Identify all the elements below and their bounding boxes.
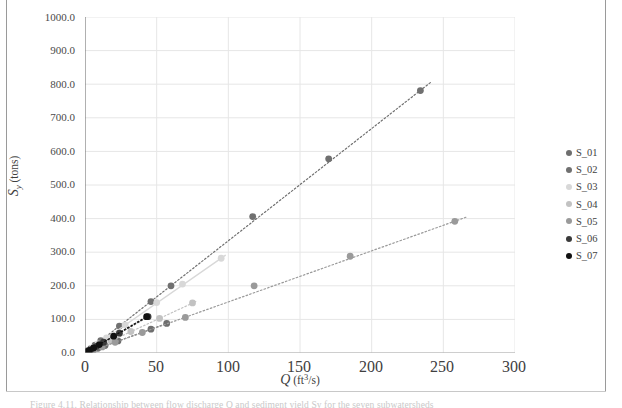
- x-tick-label: 250: [422, 358, 462, 376]
- data-point: [156, 315, 163, 322]
- legend-marker-icon: [566, 184, 572, 190]
- x-tick-label: 0: [65, 358, 105, 376]
- y-axis-symbol: S: [6, 189, 21, 196]
- legend-item-s_01[interactable]: S_01: [566, 144, 616, 161]
- legend-label: S_03: [576, 181, 598, 192]
- legend-label: S_07: [576, 250, 598, 261]
- legend-item-s_06[interactable]: S_06: [566, 230, 616, 247]
- data-point: [249, 213, 256, 220]
- data-point: [417, 87, 424, 94]
- y-axis-units: (tons): [8, 156, 20, 183]
- figure-caption: Figure 4.11. Relationship between flow d…: [30, 400, 590, 408]
- y-tick-label: 400.0: [27, 212, 75, 224]
- legend-label: S_02: [576, 164, 598, 175]
- y-tick-label: 600.0: [27, 145, 75, 157]
- y-tick-label: 1000.0: [27, 11, 75, 23]
- y-tick-label: 900.0: [27, 44, 75, 56]
- data-point: [218, 255, 225, 262]
- y-axis-title: Sy (tons): [6, 156, 23, 197]
- data-point: [189, 300, 196, 307]
- legend-label: S_06: [576, 233, 598, 244]
- data-point: [96, 341, 103, 348]
- data-point: [168, 282, 175, 289]
- y-axis-subscript: y: [13, 185, 23, 189]
- legend-marker-icon: [566, 150, 572, 156]
- y-tick-label: 700.0: [27, 111, 75, 123]
- legend-marker-icon: [566, 218, 572, 224]
- series-s_02: [85, 83, 430, 353]
- x-tick-label: 100: [208, 358, 248, 376]
- data-point: [139, 329, 146, 336]
- data-point: [347, 253, 354, 260]
- plot-area: [85, 17, 515, 353]
- legend-item-s_03[interactable]: S_03: [566, 178, 616, 195]
- y-tick-label: 200.0: [27, 279, 75, 291]
- legend-item-s_07[interactable]: S_07: [566, 247, 616, 264]
- data-point: [325, 155, 332, 162]
- data-point: [143, 313, 150, 320]
- x-tick-label: 300: [494, 358, 534, 376]
- scatter-chart: Sy (tons) Q (ft3/s) 1000.0 900.0 800.0 7…: [0, 0, 560, 392]
- legend-label: S_04: [576, 199, 598, 210]
- series-s_03: [85, 255, 225, 353]
- data-point: [251, 282, 258, 289]
- y-tick-label: 100.0: [27, 312, 75, 324]
- legend-label: S_01: [576, 147, 598, 158]
- data-point: [451, 218, 458, 225]
- data-point: [179, 281, 186, 288]
- x-tick-label: 50: [136, 358, 176, 376]
- series-s_05: [85, 217, 466, 353]
- trendline: [85, 83, 430, 353]
- data-point: [112, 339, 119, 346]
- data-point: [110, 333, 117, 340]
- data-point: [148, 298, 155, 305]
- data-point: [182, 314, 189, 321]
- legend-marker-icon: [566, 253, 572, 259]
- legend-label: S_05: [576, 216, 598, 227]
- y-tick-label: 500.0: [27, 178, 75, 190]
- legend-item-s_04[interactable]: S_04: [566, 196, 616, 213]
- legend-marker-icon: [566, 236, 572, 242]
- legend-marker-icon: [566, 201, 572, 207]
- data-point: [153, 299, 160, 306]
- y-tick-label: 800.0: [27, 78, 75, 90]
- x-tick-label: 200: [351, 358, 391, 376]
- legend-marker-icon: [566, 167, 572, 173]
- y-tick-label: 0.0: [27, 346, 75, 358]
- legend-item-s_02[interactable]: S_02: [566, 161, 616, 178]
- y-tick-label: 300.0: [27, 245, 75, 257]
- data-point: [90, 345, 97, 352]
- chart-legend: S_01S_02S_03S_04S_05S_06S_07: [566, 144, 616, 264]
- data-point: [127, 328, 134, 335]
- figure-page: Sy (tons) Q (ft3/s) 1000.0 900.0 800.0 7…: [0, 0, 622, 408]
- series-layer: [85, 83, 466, 353]
- x-tick-label: 150: [279, 358, 319, 376]
- legend-item-s_05[interactable]: S_05: [566, 213, 616, 230]
- data-point: [122, 321, 129, 328]
